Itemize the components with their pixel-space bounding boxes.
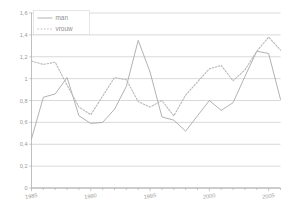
y-tick-label: 0 bbox=[24, 185, 27, 191]
y-tick-label: 0,6 bbox=[20, 119, 28, 125]
y-tick-label: 0,4 bbox=[20, 141, 28, 147]
chart-legend: manvrouw bbox=[34, 11, 90, 35]
chart-canvas: 00,20,40,60,811,21,41,6 1985199019952000… bbox=[0, 0, 294, 214]
y-tick-label: 0,2 bbox=[20, 163, 28, 169]
y-tick-label: 1,2 bbox=[20, 54, 28, 60]
y-tick-label: 1 bbox=[24, 76, 27, 82]
y-tick-label: 0,8 bbox=[20, 98, 28, 104]
legend-label-man: man bbox=[56, 14, 69, 21]
y-tick-label: 1,4 bbox=[20, 32, 28, 38]
line-chart-figure: 00,20,40,60,811,21,41,6 1985199019952000… bbox=[0, 0, 294, 214]
legend-label-vrouw: vrouw bbox=[56, 25, 73, 32]
y-tick-label: 1,6 bbox=[20, 10, 28, 16]
